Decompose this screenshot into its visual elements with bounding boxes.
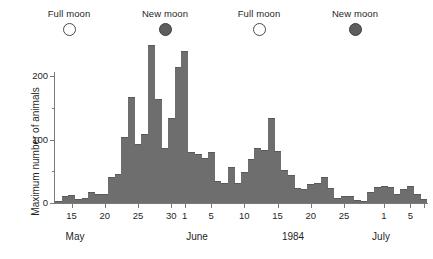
x-tick-label: 15 (62, 210, 82, 221)
moon-phase-label: Full moon (219, 8, 299, 19)
moon-phase-new-1: New moon (125, 8, 205, 36)
x-axis-line (54, 203, 428, 204)
x-tick-label: 1 (374, 210, 394, 221)
month-label-june: June (167, 231, 227, 242)
bar-series (55, 66, 427, 203)
x-tick-label: 20 (95, 210, 115, 221)
x-tick-10 (244, 204, 245, 208)
chart-figure: Full moonNew moonFull moonNew moon 01002… (0, 0, 433, 259)
x-tick-30 (171, 204, 172, 208)
x-tick-25 (344, 204, 345, 208)
x-tick-label: 25 (334, 210, 354, 221)
new-moon-icon (349, 23, 362, 36)
x-tick-label: 5 (400, 210, 420, 221)
x-tick-label: 1 (175, 210, 195, 221)
x-tick-label: 20 (301, 210, 321, 221)
x-tick-20 (311, 204, 312, 208)
x-tick-20 (105, 204, 106, 208)
x-tick-5 (211, 204, 212, 208)
x-tick-label: 15 (268, 210, 288, 221)
x-tick-25 (138, 204, 139, 208)
moon-phase-full-2: Full moon (219, 8, 299, 36)
moon-phase-new-3: New moon (315, 8, 395, 36)
month-label-1984: 1984 (263, 231, 323, 242)
month-label-july: July (351, 231, 411, 242)
x-tick-label: 25 (128, 210, 148, 221)
x-tick-5 (410, 204, 411, 208)
x-tick-end (424, 204, 425, 208)
moon-phase-full-0: Full moon (29, 8, 109, 36)
full-moon-icon (63, 23, 76, 36)
full-moon-icon (253, 23, 266, 36)
moon-phase-label: Full moon (29, 8, 109, 19)
y-axis-title: Maximum number of animals (30, 77, 41, 227)
y-axis-title-wrapper: Maximum number of animals (8, 60, 26, 208)
x-tick-15 (72, 204, 73, 208)
x-tick-1 (384, 204, 385, 208)
x-tick-label: 5 (201, 210, 221, 221)
moon-phase-label: New moon (125, 8, 205, 19)
x-tick-15 (278, 204, 279, 208)
x-tick-1 (185, 204, 186, 208)
x-tick-label: 10 (234, 210, 254, 221)
moon-phase-label: New moon (315, 8, 395, 19)
month-label-may: May (45, 231, 105, 242)
new-moon-icon (159, 23, 172, 36)
